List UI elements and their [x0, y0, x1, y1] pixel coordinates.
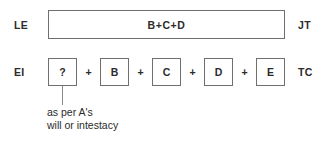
plus-sign-2: + — [137, 67, 143, 78]
life-estate-box-label: B+C+D — [147, 19, 185, 31]
annotation-text: as per A's will or intestacy — [47, 106, 118, 132]
share-box-label: D — [215, 67, 223, 78]
annotation-line-1: as per A's — [47, 106, 118, 119]
plus-sign-3: + — [189, 67, 195, 78]
share-box-label: ? — [59, 67, 65, 78]
share-box-label: E — [267, 67, 274, 78]
plus-sign-4: + — [241, 67, 247, 78]
share-box-unknown: ? — [48, 58, 77, 86]
share-box-c: C — [152, 58, 181, 86]
share-box-d: D — [204, 58, 233, 86]
row1-left-label: LE — [14, 20, 28, 31]
share-box-row: ? + B + C + D + E — [48, 58, 285, 86]
annotation-line-2: will or intestacy — [47, 119, 118, 132]
row2-left-label: EI — [14, 67, 25, 78]
connector-line — [62, 86, 63, 105]
row1-right-label: JT — [298, 20, 311, 31]
share-box-label: B — [111, 67, 119, 78]
row2-right-label: TC — [298, 67, 313, 78]
plus-sign-1: + — [85, 67, 91, 78]
share-box-label: C — [163, 67, 171, 78]
share-box-b: B — [100, 58, 129, 86]
estate-interest-diagram: LE B+C+D JT EI ? + B + C + D + E TC as p… — [0, 0, 336, 146]
share-box-e: E — [256, 58, 285, 86]
life-estate-box: B+C+D — [48, 10, 285, 39]
